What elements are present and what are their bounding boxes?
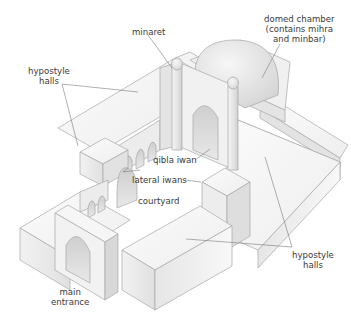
minaret-right bbox=[228, 77, 239, 170]
label-qibla-iwan: qibla iwan bbox=[153, 155, 197, 165]
label-hypostyle-halls-bottom: hypostyle halls bbox=[292, 250, 334, 270]
label-main-entrance: main entrance bbox=[51, 287, 89, 307]
label-domed-chamber: domed chamber (contains mihra and minbar… bbox=[264, 14, 335, 44]
hypostyle-hall-front bbox=[122, 206, 232, 310]
minaret-left bbox=[172, 58, 183, 150]
label-minaret: minaret bbox=[132, 27, 165, 37]
label-hypostyle-halls-top: hypostyle halls bbox=[28, 66, 70, 86]
label-lateral-iwans: lateral iwans bbox=[132, 175, 187, 185]
label-courtyard: courtyard bbox=[138, 196, 180, 206]
mosque-diagram: minaret domed chamber (contains mihra an… bbox=[0, 0, 351, 326]
